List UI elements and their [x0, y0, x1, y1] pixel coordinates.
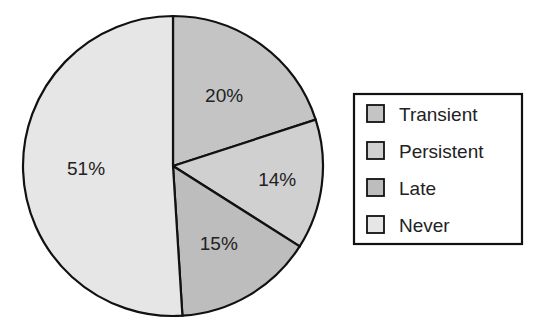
legend-swatch-persistent: [367, 142, 384, 159]
legend-swatch-transient: [367, 105, 384, 122]
legend-label-late: Late: [399, 178, 436, 199]
data-label-transient: 20%: [205, 85, 243, 106]
legend-label-persistent: Persistent: [399, 141, 484, 162]
legend-label-never: Never: [399, 215, 450, 236]
data-label-never: 51%: [67, 158, 105, 179]
data-label-persistent: 14%: [258, 169, 296, 190]
legend: TransientPersistentLateNever: [354, 94, 522, 244]
legend-label-transient: Transient: [399, 104, 478, 125]
legend-swatch-never: [367, 216, 384, 233]
pie-chart: 20%14%15%51% TransientPersistentLateNeve…: [0, 0, 538, 324]
legend-swatch-late: [367, 179, 384, 196]
data-label-late: 15%: [200, 233, 238, 254]
